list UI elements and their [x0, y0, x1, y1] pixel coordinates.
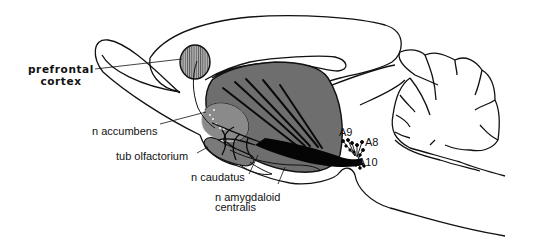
label-prefrontal-cortex: prefrontal cortex — [28, 63, 94, 87]
label-prefrontal-line1: prefrontal — [28, 63, 94, 75]
cerebellum-outline — [392, 50, 505, 176]
label-a10: A10 — [358, 157, 378, 168]
label-n-amygdaloid-centralis: n amygdaloid centralis — [215, 192, 280, 212]
label-prefrontal-line2: cortex — [28, 75, 94, 87]
label-amygdaloid-line2: centralis — [215, 202, 280, 212]
prefrontal-region — [180, 45, 210, 79]
label-n-caudatus: n caudatus — [191, 172, 245, 183]
brain-drawing — [0, 0, 540, 251]
brain-diagram: prefrontal cortex n accumbens tub olfact… — [0, 0, 540, 251]
label-a8: A8 — [365, 137, 378, 148]
label-n-accumbens: n accumbens — [92, 126, 157, 137]
label-tub-olfactorium: tub olfactorium — [116, 151, 188, 162]
label-a9: A9 — [339, 127, 352, 138]
